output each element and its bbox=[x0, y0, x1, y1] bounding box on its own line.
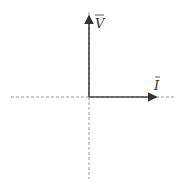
phasor-i-label: I bbox=[153, 78, 160, 93]
phasor-v-label: V bbox=[95, 16, 106, 31]
phasor-diagram: V I bbox=[0, 0, 183, 189]
